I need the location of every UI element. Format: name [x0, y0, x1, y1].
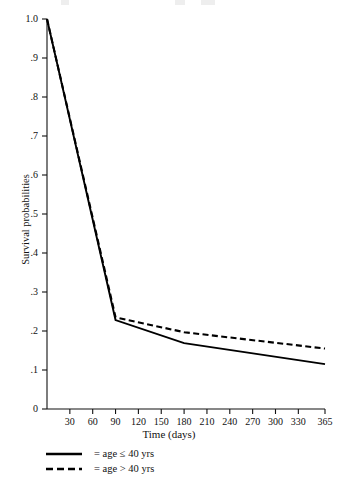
legend-label-dashed: = age > 40 yrs	[94, 463, 154, 474]
plot-canvas	[0, 0, 338, 477]
legend-item-dashed: = age > 40 yrs	[44, 461, 284, 476]
series-line-dashed	[47, 19, 325, 349]
legend-label-solid: = age ≤ 40 yrs	[94, 448, 154, 459]
y-axis-tick-label: .8	[0, 92, 38, 102]
y-axis-ticks	[42, 19, 47, 409]
x-axis-tick-label: 300	[268, 417, 283, 427]
x-axis-tick-label: 120	[131, 417, 146, 427]
x-axis-tick-label: 90	[111, 417, 121, 427]
x-axis-tick-label: 365	[318, 417, 333, 427]
legend-item-solid: = age ≤ 40 yrs	[44, 446, 284, 461]
chart-legend: = age ≤ 40 yrs = age > 40 yrs	[44, 446, 284, 476]
y-axis-tick-label: 0	[0, 404, 38, 414]
x-axis-tick-label: 240	[222, 417, 237, 427]
axis-group	[42, 19, 325, 414]
x-axis-tick-label: 330	[291, 417, 306, 427]
legend-swatch-dashed-line	[44, 464, 90, 474]
x-axis-tick-label: 210	[199, 417, 214, 427]
y-axis-tick-label: .9	[0, 53, 38, 63]
legend-swatch-solid-line	[44, 449, 90, 459]
x-axis-tick-label: 150	[154, 417, 169, 427]
data-series-group	[47, 19, 325, 364]
y-axis-tick-label: .1	[0, 365, 38, 375]
y-axis-title: Survival probabilities	[20, 135, 31, 305]
x-axis-title: Time (days)	[0, 428, 338, 440]
x-axis-tick-label: 30	[65, 417, 75, 427]
y-axis-tick-label: 1.0	[0, 14, 38, 24]
y-axis-tick-label: .2	[0, 326, 38, 336]
x-axis-tick-label: 270	[245, 417, 260, 427]
series-line-solid	[47, 19, 325, 364]
x-axis-tick-label: 180	[177, 417, 192, 427]
x-axis-tick-label: 60	[88, 417, 98, 427]
x-axis-ticks	[70, 409, 325, 414]
survival-curve-figure: 0.1.2.3.4.5.6.7.8.91.0 30609012015018021…	[0, 0, 338, 477]
